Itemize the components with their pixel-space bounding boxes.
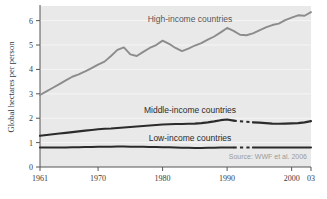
x-tick-label: 2000 [284,174,300,183]
chart-figure: 0123456 1961197019801990200003 Global he… [0,0,327,199]
y-tick-label: 6 [29,17,33,26]
y-axis-title: Global hectares per person [6,41,16,133]
series-label-low: Low-income countries [149,133,232,143]
y-tick-label: 3 [29,90,33,99]
x-tick-label: 1961 [32,174,48,183]
line-chart: 0123456 1961197019801990200003 Global he… [0,0,327,199]
x-tick-label: 03 [307,174,315,183]
series-label-middle: Middle-income countries [144,105,236,115]
y-tick-label: 0 [29,163,33,172]
x-axis: 1961197019801990200003 [32,167,315,183]
source-note: Source: WWF et al. 2006 [229,153,307,160]
x-tick-label: 1980 [155,174,171,183]
y-tick-label: 4 [29,65,33,74]
y-tick-label: 2 [29,114,33,123]
y-tick-label: 1 [29,139,33,148]
y-tick-label: 5 [29,41,33,50]
series-label-high: High-income countries [148,14,233,24]
x-tick-label: 1970 [90,174,106,183]
y-axis: 0123456 [29,5,40,172]
x-tick-label: 1990 [219,174,235,183]
